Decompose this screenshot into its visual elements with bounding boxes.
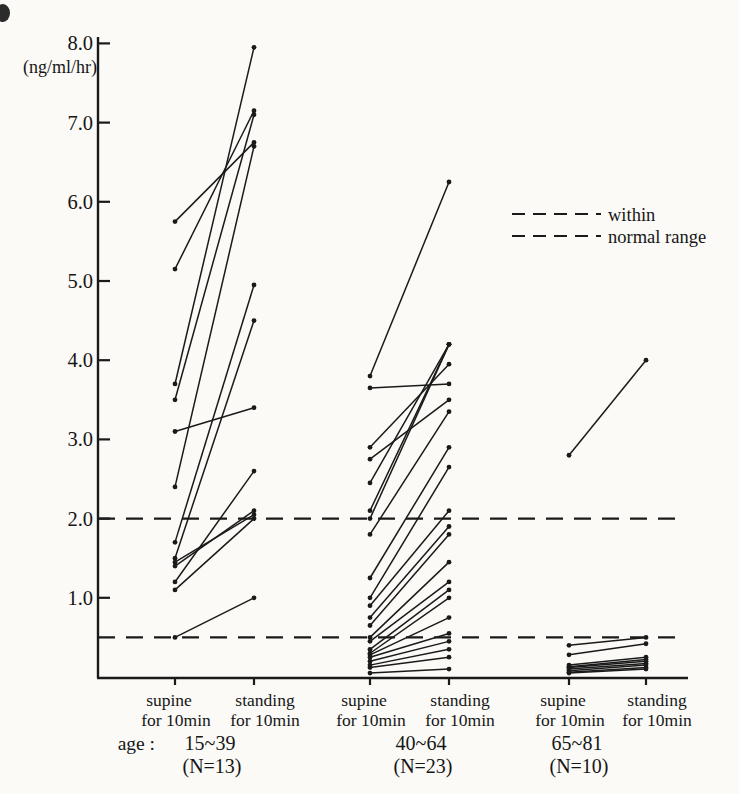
data-line: [370, 384, 449, 388]
data-point-standing: [252, 318, 257, 323]
age-range-label: 40~64: [396, 732, 447, 754]
data-point-standing: [447, 560, 452, 565]
data-point-supine: [173, 429, 178, 434]
y-tick-label: 4.0: [67, 349, 93, 371]
data-point-standing: [447, 465, 452, 470]
data-point-supine: [173, 580, 178, 585]
data-point-supine: [368, 481, 373, 486]
y-tick-label: 2.0: [67, 508, 93, 530]
data-point-supine: [173, 219, 178, 224]
data-point-standing: [447, 397, 452, 402]
data-line: [569, 360, 646, 455]
data-point-supine: [368, 386, 373, 391]
data-point-supine: [567, 453, 572, 458]
data-point-supine: [368, 671, 373, 676]
supine-duration-label: for 10min: [535, 710, 605, 730]
standing-label: standing: [430, 690, 490, 710]
data-line: [370, 182, 449, 376]
y-tick-label: 3.0: [67, 428, 93, 450]
data-line: [175, 285, 254, 542]
renin-slope-chart: 8.07.06.05.04.03.02.01.0(ng/ml/hr)within…: [0, 0, 739, 794]
legend: withinnormal range: [512, 205, 706, 247]
data-point-standing: [252, 516, 257, 521]
data-point-standing: [447, 631, 452, 636]
supine-label: supine: [146, 690, 192, 710]
data-point-supine: [368, 603, 373, 608]
data-point-standing: [447, 532, 452, 537]
supine-duration-label: for 10min: [336, 710, 406, 730]
y-tick-label: 7.0: [67, 112, 93, 134]
data-line: [175, 142, 254, 221]
data-point-standing: [447, 409, 452, 414]
data-point-supine: [567, 652, 572, 657]
age-group-15~39: supinefor 10minstandingfor 10min15~39(N=…: [141, 45, 300, 778]
supine-label: supine: [341, 690, 387, 710]
data-line: [175, 471, 254, 582]
data-line: [370, 344, 449, 518]
data-point-standing: [447, 667, 452, 672]
data-line: [569, 644, 646, 655]
scanned-figure-page: 8.07.06.05.04.03.02.01.0(ng/ml/hr)within…: [0, 0, 739, 794]
data-point-supine: [173, 587, 178, 592]
data-point-standing: [447, 587, 452, 592]
y-tick-label: 1.0: [67, 587, 93, 609]
data-point-standing: [447, 180, 452, 185]
data-line: [370, 527, 449, 618]
data-point-standing: [447, 508, 452, 513]
y-tick-label: 5.0: [67, 270, 93, 292]
data-point-standing: [252, 144, 257, 149]
standing-label: standing: [627, 690, 687, 710]
data-point-standing: [252, 469, 257, 474]
data-point-supine: [368, 665, 373, 670]
supine-label: supine: [540, 690, 586, 710]
data-point-supine: [368, 445, 373, 450]
y-tick-label: 8.0: [67, 32, 93, 54]
y-axis-unit-label: (ng/ml/hr): [23, 57, 97, 78]
data-point-supine: [368, 576, 373, 581]
data-point-standing: [447, 524, 452, 529]
data-line: [175, 146, 254, 487]
data-line: [370, 364, 449, 447]
data-point-supine: [173, 540, 178, 545]
data-line: [175, 598, 254, 638]
data-point-standing: [447, 445, 452, 450]
data-point-standing: [447, 362, 452, 367]
data-point-supine: [173, 635, 178, 640]
supine-duration-label: for 10min: [141, 710, 211, 730]
data-point-supine: [368, 623, 373, 628]
standing-duration-label: for 10min: [425, 710, 495, 730]
data-line: [175, 111, 254, 269]
data-point-supine: [368, 595, 373, 600]
scan-artifact: [0, 4, 10, 22]
data-line: [370, 669, 449, 673]
data-point-standing: [644, 358, 649, 363]
standing-duration-label: for 10min: [230, 710, 300, 730]
age-prefix-label: age :: [118, 733, 155, 754]
y-axis-ticks: 8.07.06.05.04.03.02.01.0: [67, 32, 110, 608]
data-point-standing: [447, 615, 452, 620]
y-tick-label: 6.0: [67, 191, 93, 213]
data-point-supine: [368, 508, 373, 513]
data-point-supine: [173, 485, 178, 490]
data-point-supine: [368, 615, 373, 620]
data-point-supine: [368, 457, 373, 462]
data-point-standing: [447, 655, 452, 660]
data-point-standing: [252, 283, 257, 288]
data-point-standing: [447, 382, 452, 387]
data-line: [370, 344, 449, 483]
data-point-standing: [447, 595, 452, 600]
data-point-supine: [368, 516, 373, 521]
standing-label: standing: [235, 690, 295, 710]
age-range-label: 65~81: [552, 732, 603, 754]
data-point-supine: [368, 374, 373, 379]
data-point-standing: [644, 641, 649, 646]
data-point-supine: [173, 267, 178, 272]
data-point-standing: [644, 667, 649, 672]
data-point-supine: [173, 382, 178, 387]
data-point-standing: [252, 595, 257, 600]
legend-label-within: within: [608, 205, 655, 225]
data-point-standing: [252, 508, 257, 513]
data-point-supine: [567, 643, 572, 648]
data-point-standing: [447, 580, 452, 585]
data-point-supine: [173, 397, 178, 402]
